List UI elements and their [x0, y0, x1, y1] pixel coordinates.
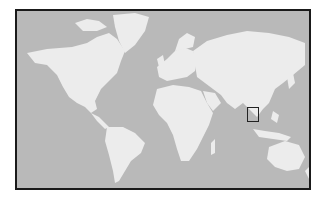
new-zealand: [305, 167, 309, 179]
world-map: [17, 11, 309, 188]
australia: [267, 141, 305, 171]
africa: [153, 85, 213, 161]
indonesia: [253, 129, 291, 141]
scandinavia: [175, 33, 195, 51]
british-isles: [157, 55, 165, 67]
philippines: [271, 111, 279, 123]
south-america: [105, 127, 145, 183]
locator-box: [247, 107, 259, 122]
central-america: [91, 113, 109, 129]
canadian-arctic: [75, 19, 107, 31]
madagascar: [211, 139, 215, 155]
world-map-frame: [15, 9, 311, 190]
north-america: [27, 33, 125, 113]
